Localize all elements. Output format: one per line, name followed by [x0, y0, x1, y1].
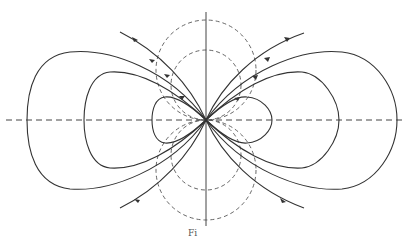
- figure-caption: Fi: [188, 228, 197, 238]
- dipole-field-diagram: [0, 0, 412, 239]
